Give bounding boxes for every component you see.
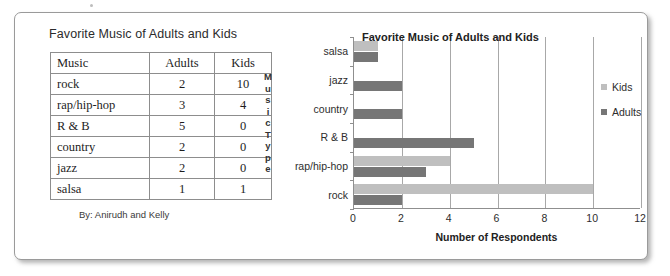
y-axis-label-r-b: R & B bbox=[321, 131, 348, 143]
legend-label-adults: Adults bbox=[612, 106, 641, 118]
table-cell-adults: 2 bbox=[150, 137, 215, 158]
table-header-music: Music bbox=[51, 53, 150, 74]
bar-adults-r-b bbox=[354, 138, 474, 148]
bar-adults-jazz bbox=[354, 81, 402, 91]
gridline bbox=[450, 37, 451, 208]
y-axis-label-salsa: salsa bbox=[323, 45, 348, 57]
table-cell-adults: 3 bbox=[150, 95, 215, 116]
table-row: R & B50 bbox=[51, 116, 272, 137]
chart-title: Favorite Music of Adults and Kids bbox=[362, 31, 539, 43]
y-axis-title-letter: y bbox=[261, 140, 275, 152]
table-cell-music: country bbox=[51, 137, 150, 158]
y-axis-title-letter: e bbox=[261, 163, 275, 175]
content-frame: Favorite Music of Adults and Kids MusicA… bbox=[14, 12, 648, 260]
y-axis-title-letter: p bbox=[261, 152, 275, 164]
table-panel: Favorite Music of Adults and Kids MusicA… bbox=[39, 27, 279, 220]
legend-swatch-kids bbox=[601, 84, 607, 90]
legend-item-kids: Kids bbox=[601, 81, 657, 93]
y-axis-title-letter: T bbox=[261, 129, 275, 141]
legend-item-adults: Adults bbox=[601, 106, 657, 118]
table-header-adults: Adults bbox=[150, 53, 215, 74]
table-title: Favorite Music of Adults and Kids bbox=[49, 27, 279, 41]
gridline bbox=[593, 37, 594, 208]
page-speck bbox=[90, 4, 93, 7]
bar-adults-rock bbox=[354, 195, 402, 205]
x-axis-tick-4: 4 bbox=[446, 212, 452, 224]
table-cell-adults: 2 bbox=[150, 158, 215, 179]
y-axis-title-letter: M bbox=[261, 71, 275, 83]
table-cell-music: salsa bbox=[51, 179, 150, 200]
bar-adults-country bbox=[354, 109, 402, 119]
table-cell-music: jazz bbox=[51, 158, 150, 179]
chart-legend: KidsAdults bbox=[601, 81, 657, 131]
y-axis-label-jazz: jazz bbox=[329, 74, 348, 86]
gridline bbox=[498, 37, 499, 208]
table-row: salsa11 bbox=[51, 179, 272, 200]
x-axis-tick-0: 0 bbox=[350, 212, 356, 224]
y-axis-tick bbox=[350, 180, 354, 181]
y-axis-label-rap-hip-hop: rap/hip-hop bbox=[295, 160, 348, 172]
table-row: country20 bbox=[51, 137, 272, 158]
y-axis-title-letter: i bbox=[261, 106, 275, 118]
table-row: rock210 bbox=[51, 74, 272, 95]
x-axis-tick-8: 8 bbox=[541, 212, 547, 224]
table-row: rap/hip-hop34 bbox=[51, 95, 272, 116]
y-axis-tick bbox=[350, 66, 354, 67]
y-axis-title: MusicType bbox=[261, 71, 275, 175]
table-header-row: MusicAdultsKids bbox=[51, 53, 272, 74]
x-axis-title: Number of Respondents bbox=[353, 231, 640, 243]
y-axis-tick bbox=[350, 209, 354, 210]
bar-kids-rock bbox=[354, 184, 593, 194]
table-cell-adults: 1 bbox=[150, 179, 215, 200]
table-cell-music: R & B bbox=[51, 116, 150, 137]
bar-kids-rap-hip-hop bbox=[354, 156, 450, 166]
x-axis-tick-12: 12 bbox=[634, 212, 646, 224]
table-cell-music: rock bbox=[51, 74, 150, 95]
y-axis-title-letter: c bbox=[261, 117, 275, 129]
y-axis-tick bbox=[350, 37, 354, 38]
y-axis-tick bbox=[350, 123, 354, 124]
legend-label-kids: Kids bbox=[612, 81, 632, 93]
x-axis-tick-2: 2 bbox=[398, 212, 404, 224]
bar-adults-salsa bbox=[354, 52, 378, 62]
y-axis-category-labels: salsajazzcountryR & Brap/hip-hoprock bbox=[276, 37, 352, 209]
chart-panel: MusicType salsajazzcountryR & Brap/hip-h… bbox=[258, 29, 658, 257]
table-cell-adults: 5 bbox=[150, 116, 215, 137]
legend-swatch-adults bbox=[601, 109, 607, 115]
music-data-table: MusicAdultsKidsrock210rap/hip-hop34R & B… bbox=[50, 52, 272, 200]
x-axis-tick-labels: 024681012 bbox=[353, 212, 640, 226]
y-axis-label-country: country bbox=[314, 103, 348, 115]
y-axis-tick bbox=[350, 152, 354, 153]
y-axis-title-letter: s bbox=[261, 94, 275, 106]
y-axis-label-rock: rock bbox=[328, 189, 348, 201]
table-row: jazz20 bbox=[51, 158, 272, 179]
bar-adults-rap-hip-hop bbox=[354, 167, 426, 177]
y-axis-title-letter: u bbox=[261, 83, 275, 95]
table-cell-music: rap/hip-hop bbox=[51, 95, 150, 116]
y-axis-tick bbox=[350, 94, 354, 95]
table-cell-adults: 2 bbox=[150, 74, 215, 95]
byline-caption: By: Anirudh and Kelly bbox=[79, 209, 279, 220]
x-axis-tick-10: 10 bbox=[586, 212, 598, 224]
plot-area bbox=[353, 37, 640, 209]
gridline bbox=[402, 37, 403, 208]
x-axis-tick-6: 6 bbox=[494, 212, 500, 224]
gridline bbox=[545, 37, 546, 208]
page-canvas: Favorite Music of Adults and Kids MusicA… bbox=[0, 0, 670, 276]
